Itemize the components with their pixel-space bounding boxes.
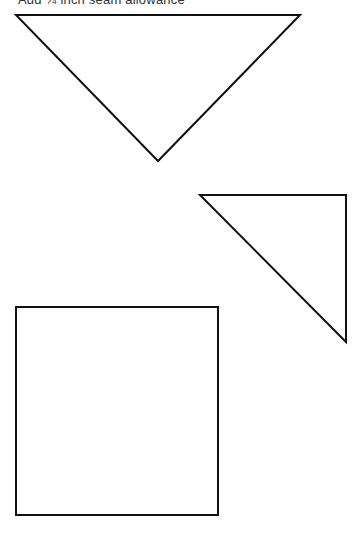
- square-piece: [16, 307, 218, 515]
- small-triangle-piece: [200, 195, 346, 342]
- pattern-pieces: [0, 0, 356, 536]
- large-triangle-piece: [16, 15, 300, 161]
